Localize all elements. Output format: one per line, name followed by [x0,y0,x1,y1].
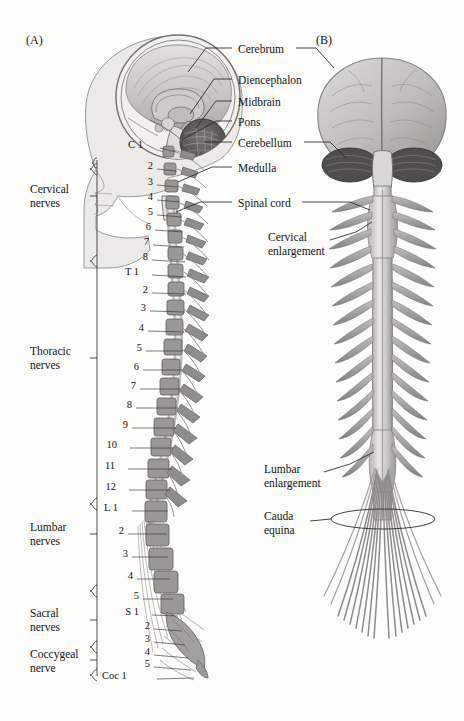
segment-label-c4: 4 [129,191,153,203]
segment-label-c6: 6 [127,221,151,233]
segment-label-c3: 3 [129,176,153,188]
segment-label-t12: 12 [92,481,116,493]
segment-label-t5: 5 [118,342,142,354]
anatomy-illustration [0,0,464,721]
panel-tag-b: (B) [316,33,332,47]
segment-label-s4: 4 [126,646,150,658]
panel-tag-a: (A) [26,33,43,47]
label-coccygeal-nerve-line2: nerve [30,662,56,676]
segment-label-c1: C 1 [119,139,143,151]
segment-label-s2: 2 [126,620,150,632]
panel-b-brain-and-cord [318,58,446,638]
segment-label-t1: T 1 [115,266,139,278]
label-lumbar-nerves-line2: nerves [30,535,60,549]
segment-label-l1: L 1 [94,502,118,514]
label-cervical-nerves-line1: Cervical [30,183,69,197]
label-cauda-equina-line1: Cauda [264,510,293,524]
segment-label-c8: 8 [124,251,148,263]
segment-label-coc1: Coc 1 [102,670,126,682]
segment-label-l5: 5 [115,590,139,602]
label-spinal-cord: Spinal cord [238,197,291,211]
segment-label-t6: 6 [115,361,139,373]
label-midbrain: Midbrain [238,96,281,110]
label-cerebellum: Cerebellum [238,137,292,151]
label-cerebrum: Cerebrum [238,43,284,57]
segment-label-c2: 2 [129,160,153,172]
segment-label-c5: 5 [129,206,153,218]
segment-label-t9: 9 [104,419,128,431]
label-cervical-enlargement-line1: Cervical [268,231,307,245]
segment-label-t8: 8 [108,399,132,411]
segment-label-t3: 3 [122,302,146,314]
label-coccygeal-nerve-line1: Coccygeal [30,648,79,662]
segment-label-s1: S 1 [115,606,139,618]
label-thoracic-nerves-line1: Thoracic [30,345,71,359]
label-pons: Pons [238,116,260,130]
label-cervical-enlargement-line2: enlargement [268,245,325,259]
label-lumbar-nerves-line1: Lumbar [30,521,66,535]
label-sacral-nerves-line2: nerves [30,621,60,635]
segment-label-s5: 5 [126,658,150,670]
label-cauda-equina-line2: equina [264,524,295,538]
segment-label-l2: 2 [100,525,124,537]
segment-label-l4: 4 [109,570,133,582]
figure-canvas: (A) (B) Cerebrum Diencephalon Midbrain P… [0,0,464,721]
segment-label-t7: 7 [112,380,136,392]
segment-label-t10: 10 [93,439,117,451]
label-diencephalon: Diencephalon [238,74,302,88]
label-lumbar-enlargement-line2: enlargement [264,477,321,491]
label-cervical-nerves-line2: nerves [30,197,60,211]
segment-label-t2: 2 [124,284,148,296]
label-lumbar-enlargement-line1: Lumbar [264,463,300,477]
segment-label-c7: 7 [125,236,149,248]
label-sacral-nerves-line1: Sacral [30,607,59,621]
segment-label-t4: 4 [120,322,144,334]
segment-label-l3: 3 [104,548,128,560]
label-medulla: Medulla [238,162,276,176]
segment-label-s3: 3 [126,633,150,645]
label-thoracic-nerves-line2: nerves [30,359,60,373]
segment-label-t11: 11 [91,460,115,472]
